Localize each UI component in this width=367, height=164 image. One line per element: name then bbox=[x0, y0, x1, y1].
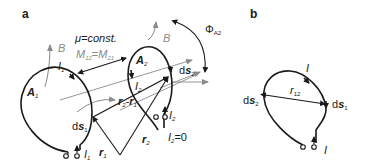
current-label-b-top: I bbox=[306, 62, 309, 74]
loop-b bbox=[264, 71, 326, 145]
current-arrow-1 bbox=[70, 74, 74, 79]
r12-label: r12 bbox=[290, 84, 301, 97]
r1-label: r1 bbox=[99, 146, 107, 159]
b-field-arrow-3 bbox=[77, 100, 115, 113]
ds1-label-b: ds1 bbox=[332, 98, 348, 111]
current-label-b-bottom: I bbox=[324, 144, 327, 156]
b-field-label-2: B bbox=[163, 32, 170, 44]
mu-const-label: μ=const. bbox=[74, 32, 117, 44]
current-1-input-label: I1 bbox=[84, 148, 90, 161]
i2-zero-label: I2=0 bbox=[168, 131, 187, 144]
area-1-label: A1 bbox=[26, 86, 38, 99]
loop-1 bbox=[21, 67, 92, 152]
b-field-arrow-2 bbox=[148, 22, 156, 40]
terminal bbox=[163, 115, 168, 120]
panel-label-a: a bbox=[22, 7, 29, 21]
current-arrow-2 bbox=[131, 70, 132, 78]
ds1-label: ds1 bbox=[72, 120, 88, 133]
terminal bbox=[75, 154, 80, 159]
r2-label: r2 bbox=[142, 133, 150, 146]
terminal bbox=[64, 154, 69, 159]
terminal bbox=[312, 145, 317, 150]
panel-label-b: b bbox=[250, 7, 257, 21]
ds2-label-b: ds2 bbox=[243, 94, 259, 107]
mutual-inductance-label: M12=M21 bbox=[76, 48, 114, 61]
b-field-arrow-1 bbox=[45, 45, 50, 87]
terminal bbox=[154, 115, 159, 120]
current-2-input-label: I2 bbox=[169, 109, 176, 122]
ds2-arrow bbox=[170, 66, 171, 72]
mutual-inductance-diagram: a μ=const. M12=M21 B B A1 A2 I1 I1 I2 I2… bbox=[0, 0, 367, 164]
current-2-label: I2 bbox=[135, 80, 142, 93]
terminal bbox=[301, 145, 306, 150]
current-1-label: I1 bbox=[58, 60, 64, 73]
vector-r1 bbox=[93, 117, 120, 155]
area-2-label: A2 bbox=[135, 54, 148, 67]
ds2-label: ds2 bbox=[179, 64, 195, 77]
flux-label: ΦA2 bbox=[205, 23, 222, 36]
b-field-label-1: B bbox=[58, 42, 65, 54]
